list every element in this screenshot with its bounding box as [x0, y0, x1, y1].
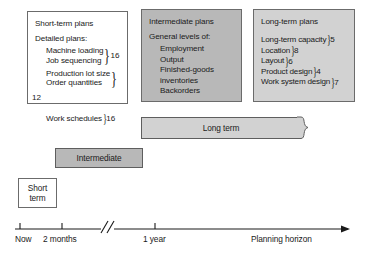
chapter-number: 12 [32, 93, 41, 102]
intermediate-horizon-bar: Intermediate [55, 148, 143, 168]
list-item-label: Layout [261, 56, 284, 65]
long-term-bar-wavy-edge-icon [297, 116, 311, 140]
short-term-plans-subtitle: Detailed plans: [35, 34, 121, 44]
list-item-label: Work system design [261, 77, 330, 86]
list-item: Job sequencing [35, 56, 103, 66]
list-item: inventories [149, 76, 235, 87]
list-item: Output [149, 55, 235, 66]
list-item: Machine loading [35, 46, 103, 56]
long-term-plans-box: Long-term plans Long-term capacity}5 Loc… [253, 9, 355, 102]
axis-label-one-year: 1 year [143, 234, 166, 244]
brace-icon: } [291, 46, 295, 55]
list-item: Product design}4 [261, 67, 348, 78]
brace-icon: } [331, 78, 335, 87]
short-term-group-lines: Machine loading Job sequencing [35, 46, 103, 65]
short-term-group: Production lot size Order quantities }12 [35, 68, 121, 105]
short-term-plans-title: Short-term plans [35, 19, 121, 29]
intermediate-plans-box: Intermediate plans General levels of: Em… [141, 9, 242, 102]
long-term-horizon-bar-label: Long term [203, 123, 239, 133]
chapter-number: 16 [111, 51, 120, 60]
brace-icon: } [104, 51, 110, 60]
axis-break-slash [101, 221, 108, 233]
long-term-plans-title: Long-term plans [261, 17, 348, 27]
axis-break-slash [107, 221, 114, 233]
short-term-group-lines: Work schedules [35, 114, 102, 124]
short-term-group: Machine loading Job sequencing }16 [35, 46, 121, 65]
short-term-horizon-bar: Short term [18, 178, 57, 208]
axis-label-two-months: 2 months [43, 234, 77, 244]
short-term-horizon-bar-label-line1: Short [28, 183, 47, 194]
list-item: Finished-goods [149, 65, 235, 76]
list-item: Location}8 [261, 46, 348, 57]
planning-horizon-diagram: Short-term plans Detailed plans: Machine… [0, 0, 368, 257]
axis-label-now: Now [15, 234, 31, 244]
short-term-group: Work schedules }16 [35, 109, 121, 127]
intermediate-horizon-bar-label: Intermediate [77, 153, 122, 163]
brace-icon: } [111, 74, 117, 83]
short-term-plans-box: Short-term plans Detailed plans: Machine… [27, 11, 128, 104]
brace-icon: } [327, 35, 331, 44]
short-term-horizon-bar-label-line2: term [29, 193, 45, 204]
brace-icon: } [103, 114, 107, 123]
short-term-group-lines: Production lot size Order quantities [35, 69, 110, 88]
list-item: Order quantities [35, 78, 110, 88]
list-item: Backorders [149, 86, 235, 97]
intermediate-plans-title: Intermediate plans [149, 17, 235, 27]
list-item: Work system design}7 [261, 77, 348, 88]
chapter-number: 16 [106, 114, 115, 123]
list-item: Work schedules [35, 114, 102, 124]
list-item: Production lot size [35, 69, 110, 79]
axis-label-planning-horizon: Planning horizon [251, 234, 312, 244]
brace-icon: } [285, 57, 289, 66]
long-term-horizon-bar: Long term [141, 117, 300, 139]
brace-icon: } [313, 67, 317, 76]
list-item: Layout}6 [261, 56, 348, 67]
list-item: Long-term capacity}5 [261, 35, 348, 46]
list-item: Employment [149, 44, 235, 55]
axis-arrowhead-icon [341, 225, 350, 232]
intermediate-plans-subtitle: General levels of: [149, 32, 235, 42]
